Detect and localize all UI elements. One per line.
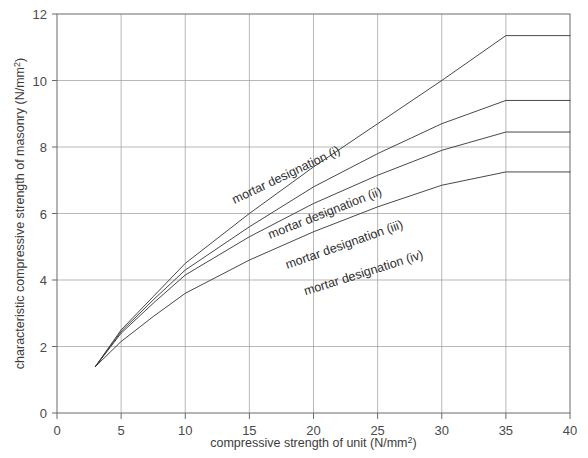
y-tick-label: 12 [33, 7, 47, 22]
y-tick-label: 0 [40, 406, 47, 421]
series-line-2 [95, 100, 570, 366]
compressive-strength-chart: 0510152025303540024681012 mortar designa… [0, 0, 588, 458]
series-line-1 [95, 36, 570, 367]
axis-titles: compressive strength of unit (N/mm2)char… [12, 58, 417, 450]
series-lines [95, 36, 570, 367]
series-line-4 [95, 172, 570, 367]
x-tick-label: 30 [435, 423, 449, 438]
x-tick-label: 40 [563, 423, 577, 438]
x-axis-title: compressive strength of unit (N/mm2) [210, 435, 416, 450]
chart-container: 0510152025303540024681012 mortar designa… [0, 0, 588, 458]
y-tick-label: 10 [33, 74, 47, 89]
series-label-1: mortar designation (i) [230, 143, 343, 206]
x-tick-label: 5 [118, 423, 125, 438]
x-tick-label: 10 [178, 423, 192, 438]
y-axis-title: characteristic compressive strength of m… [12, 58, 27, 369]
x-tick-label: 0 [53, 423, 60, 438]
y-tick-label: 4 [40, 273, 47, 288]
y-tick-label: 6 [40, 207, 47, 222]
y-tick-label: 8 [40, 140, 47, 155]
y-tick-label: 2 [40, 340, 47, 355]
x-tick-label: 35 [499, 423, 513, 438]
